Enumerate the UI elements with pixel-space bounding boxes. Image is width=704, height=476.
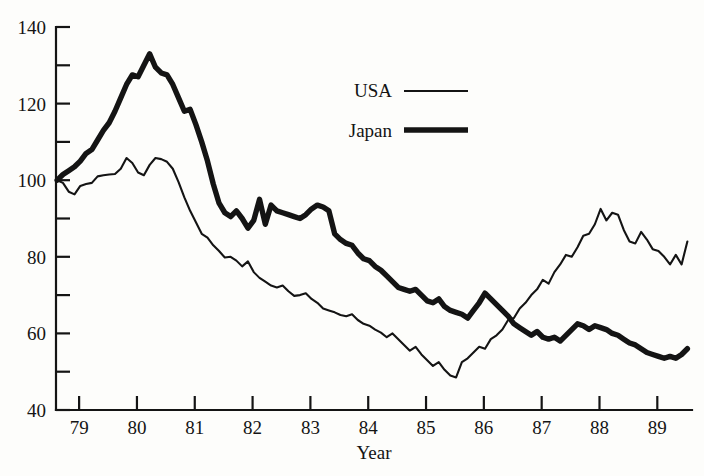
x-tick-label-84: 84 [359,417,379,438]
x-tick-label-89: 89 [648,417,667,438]
x-axis: 7980818283848586878889 [56,396,692,438]
x-tick-label-79: 79 [70,417,89,438]
y-axis-minor-ticks [56,65,70,371]
legend-label-japan: Japan [349,120,393,141]
x-tick-label-80: 80 [127,417,146,438]
y-tick-label-100: 100 [18,170,47,191]
series-line-usa [57,158,687,377]
y-tick-label-80: 80 [27,247,46,268]
x-axis-ticks [79,396,657,410]
x-tick-label-87: 87 [532,417,551,438]
x-tick-label-82: 82 [243,417,262,438]
x-tick-label-88: 88 [590,417,609,438]
chart-figure: 406080100120140 7980818283848586878889 Y… [0,0,704,476]
y-axis: 406080100120140 [18,17,71,421]
x-tick-label-83: 83 [301,417,320,438]
chart-canvas: 406080100120140 7980818283848586878889 Y… [0,0,704,476]
x-tick-label-86: 86 [474,417,493,438]
x-axis-tick-labels: 7980818283848586878889 [70,417,667,438]
x-axis-title: Year [356,442,392,463]
y-tick-label-120: 120 [18,94,47,115]
plot-series [57,54,687,378]
legend-label-usa: USA [354,80,392,101]
y-tick-label-60: 60 [27,323,46,344]
y-axis-tick-labels: 406080100120140 [18,17,47,421]
y-tick-label-140: 140 [18,17,47,38]
chart-legend: USA Japan [349,80,468,141]
x-tick-label-85: 85 [417,417,436,438]
y-tick-label-40: 40 [27,400,46,421]
x-tick-label-81: 81 [185,417,204,438]
